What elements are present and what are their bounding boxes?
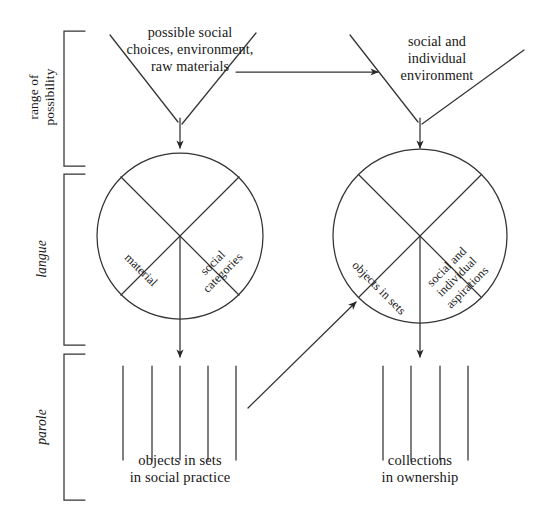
- parole-ticks-left: [123, 366, 236, 460]
- bracket-label-parole: parole: [34, 409, 50, 445]
- bracket-langue: [64, 174, 85, 345]
- diagram-canvas: possible social choices, environment, ra…: [0, 0, 547, 526]
- bracket-parole: [64, 354, 85, 500]
- bracket-label-langue: langue: [34, 240, 50, 278]
- caption-objects-in-sets-in-social-practice: objects in sets in social practice: [130, 452, 231, 486]
- bracket-range-of-possibility: [64, 31, 85, 166]
- bracket-label-range-of-possibility: range of possibility: [26, 69, 58, 126]
- arrow-parole-to-right-circle: [248, 302, 356, 408]
- caption-collections-in-ownership: collections in ownership: [382, 452, 459, 486]
- caption-possible-social-choices: possible social choices, environment, ra…: [127, 24, 254, 74]
- parole-ticks-right: [383, 366, 468, 460]
- caption-social-individual-environment: social and individual environment: [401, 33, 474, 83]
